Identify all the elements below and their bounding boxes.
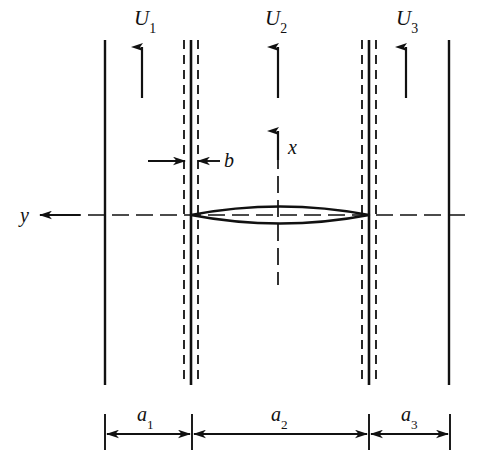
plate-left (184, 40, 198, 385)
dimension-label-a2: a2 (271, 404, 288, 428)
dimension-label-a2-base: a (271, 403, 281, 425)
dimension-label-a2-subscript: 2 (281, 417, 288, 432)
diagram-svg (0, 0, 477, 452)
velocity-label-u2-base: U (265, 6, 280, 30)
x-axis-label: x (288, 137, 297, 157)
dimension-label-a1-subscript: 1 (147, 417, 154, 432)
velocity-label-u3-base: U (396, 6, 411, 30)
velocity-label-u2-subscript: 2 (280, 21, 287, 36)
figure-canvas: U1 U2 U3 x y b a1 a2 a3 (0, 0, 477, 452)
plate-right (362, 40, 376, 385)
flow-arrows (142, 47, 406, 98)
dimension-label-a3-base: a (401, 403, 411, 425)
dimension-label-a1-base: a (137, 403, 147, 425)
velocity-label-u2: U2 (265, 8, 287, 33)
dimension-label-a3-subscript: 3 (411, 417, 418, 432)
velocity-label-u1-subscript: 1 (149, 21, 156, 36)
b-label: b (224, 150, 234, 170)
velocity-label-u1-base: U (134, 6, 149, 30)
dimension-label-a1: a1 (137, 404, 154, 428)
velocity-label-u3-subscript: 3 (411, 21, 418, 36)
y-axis-label: y (20, 205, 29, 225)
velocity-label-u3: U3 (396, 8, 418, 33)
dimension-label-a3: a3 (401, 404, 418, 428)
velocity-label-u1: U1 (134, 8, 156, 33)
